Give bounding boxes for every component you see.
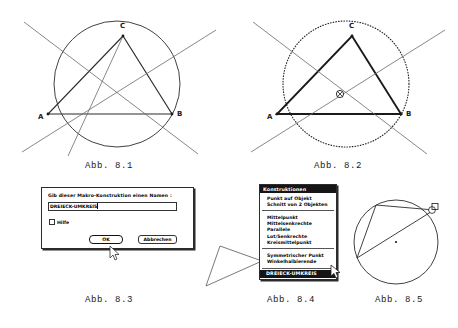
caption-8-5: Abb. 8.5: [375, 295, 423, 305]
vertex-c-dot: [351, 35, 354, 38]
menu-item-dreieck-umkreis[interactable]: DREIECK-UMKREIS: [260, 270, 336, 278]
circumcircle-dotted: [283, 21, 409, 147]
dialog-prompt-label: Gib dieser Makro-Konstruktion einen Name…: [48, 193, 172, 198]
macro-name-dialog[interactable]: Gib dieser Makro-Konstruktion einen Name…: [41, 187, 194, 249]
macro-name-input[interactable]: DREIECK-UMKREIS: [48, 202, 177, 211]
vertex-b-dot: [171, 113, 174, 116]
text-caret: [97, 203, 98, 209]
menu-separator-3: [262, 268, 334, 269]
menu-item-winkelhalbierende[interactable]: Winkelhalbierende: [260, 259, 336, 265]
right-angle-marker: [429, 204, 438, 214]
figure-8-2: A B C: [237, 4, 457, 159]
vertex-label-b: B: [177, 110, 182, 118]
ok-button[interactable]: OK: [89, 235, 123, 244]
vertex-c-dot: [122, 35, 125, 38]
caption-8-2: Abb. 8.2: [314, 161, 362, 171]
vertex-label-b: B: [406, 110, 411, 118]
menu-separator-1: [262, 210, 334, 211]
triangle-abc: [48, 36, 172, 114]
vertex-a-dot: [47, 113, 50, 116]
circle-center-dot: [395, 241, 397, 243]
vertex-label-a: A: [38, 113, 44, 121]
perpendicular-bisector-2: [251, 30, 445, 152]
vertex-label-c: C: [120, 22, 125, 30]
perpendicular-bisector-3: [68, 36, 123, 156]
diameter-line: [357, 210, 434, 258]
mouse-cursor-dialog: [108, 246, 122, 262]
figure-sheet: A B C Abb. 8.1 A B C: [0, 0, 458, 328]
menu-separator-2: [262, 248, 334, 249]
help-checkbox[interactable]: [49, 219, 55, 225]
figure-8-1-drawing: A B C: [8, 4, 228, 159]
circumcenter-marker: [336, 90, 343, 97]
connector-triangle: [198, 236, 268, 290]
circumcircle: [54, 21, 180, 147]
figure-8-5: [344, 192, 452, 290]
vertex-a-dot: [276, 113, 279, 116]
menu-item-schnitt-von-2-objekten[interactable]: Schnitt von 2 Objekten: [260, 201, 336, 207]
caption-8-1: Abb. 8.1: [85, 161, 133, 171]
triangle-side-2: [376, 205, 434, 210]
menu-group-one: Punkt auf Objekt Schnitt von 2 Objekten: [260, 193, 336, 209]
figure-8-1: A B C: [8, 4, 228, 159]
vertex-b-dot: [400, 113, 403, 116]
constructions-menu[interactable]: Konstruktionen Punkt auf Objekt Schnitt …: [259, 184, 337, 280]
triangle-abc: [277, 36, 401, 114]
menu-item-kreismittelpunkt[interactable]: Kreismittelpunkt: [260, 239, 336, 245]
figure-8-2-drawing: A B C: [237, 4, 457, 159]
macro-name-value: DREIECK-UMKREIS: [50, 204, 97, 209]
caption-8-4: Abb. 8.4: [267, 295, 315, 305]
menu-group-three: Symmetrischer Punkt Winkelhalbierende: [260, 250, 336, 266]
mouse-cursor-menu: [330, 265, 342, 279]
perpendicular-bisector-2: [22, 30, 216, 152]
vertex-label-a: A: [267, 113, 273, 121]
menu-title: Konstruktionen: [260, 185, 336, 193]
cancel-button[interactable]: Abbrechen: [138, 235, 177, 244]
help-checkbox-row[interactable]: Hilfe: [49, 219, 69, 225]
vertex-label-c: C: [349, 22, 354, 30]
menu-group-two: Mittelpunkt Mittelsenkrechte Parallele L…: [260, 212, 336, 247]
help-checkbox-label: Hilfe: [57, 220, 69, 225]
figure-8-5-drawing: [344, 192, 452, 290]
triangle-side-1: [357, 205, 376, 258]
caption-8-3: Abb. 8.3: [85, 295, 133, 305]
